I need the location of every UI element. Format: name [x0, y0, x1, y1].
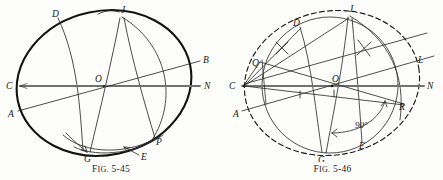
- figure-5-45-caption: FIG. 5-45: [0, 164, 222, 174]
- label-point-O: O: [95, 74, 102, 84]
- construction-arc-D: [300, 27, 322, 152]
- caption-number: 5-45: [112, 164, 131, 174]
- figure-5-46: D J L N Q C O A R E G 90° FIG. 5-46: [222, 0, 443, 180]
- label-point-P: P: [155, 137, 162, 147]
- bisector-tick-left: [276, 42, 288, 54]
- label-point-N: N: [426, 81, 434, 91]
- figure-5-45-drawing: D J B N C A O P E G: [0, 0, 222, 162]
- label-point-C: C: [229, 81, 236, 91]
- label-point-G: G: [318, 155, 325, 162]
- label-point-Q: Q: [252, 58, 259, 68]
- figure-5-46-labels: D J L N Q C O A R E G 90°: [229, 4, 434, 162]
- label-point-A: A: [232, 109, 239, 119]
- label-point-A: A: [7, 109, 14, 119]
- construction-line-Q-down: [262, 60, 266, 104]
- bisector-tick-right: [357, 40, 371, 56]
- label-point-L: L: [417, 55, 423, 65]
- figure-page: D J B N C A O P E G FIG. 5-45: [0, 0, 443, 180]
- label-point-C: C: [6, 81, 13, 91]
- point-dot-C: [243, 85, 246, 88]
- caption-smallcaps: IG.: [97, 165, 108, 174]
- figure-5-46-caption: FIG. 5-46: [222, 164, 443, 174]
- construction-arc-large: [122, 17, 166, 140]
- label-point-O: O: [332, 74, 339, 84]
- chord-line-C-D: [244, 28, 301, 86]
- pointer-arc-near-G: [66, 133, 87, 152]
- label-point-D: D: [292, 18, 300, 28]
- caption-number: 5-46: [333, 164, 352, 174]
- figure-5-45-labels: D J B N C A O P E G: [6, 5, 211, 162]
- label-point-E: E: [140, 152, 147, 162]
- label-point-J: J: [349, 4, 354, 14]
- label-point-D: D: [51, 9, 59, 19]
- main-ellipse-outline: [3, 0, 205, 162]
- chord-line-C-R: [244, 86, 404, 105]
- construction-arc-left: [58, 18, 83, 150]
- figure-5-45: D J B N C A O P E G FIG. 5-45: [0, 0, 222, 180]
- label-point-E: E: [358, 141, 365, 151]
- center-point-O: [103, 85, 105, 87]
- label-point-G: G: [84, 154, 91, 162]
- center-point-O: [331, 85, 334, 88]
- label-point-R: R: [398, 102, 405, 112]
- construction-arc-bottom: [63, 135, 160, 150]
- label-point-B: B: [203, 55, 209, 65]
- construction-arc-bottom-inner: [74, 135, 163, 153]
- label-angle-90: 90°: [355, 120, 368, 130]
- label-point-N: N: [203, 81, 211, 91]
- figure-5-46-drawing: D J L N Q C O A R E G 90°: [222, 0, 443, 162]
- caption-smallcaps: IG.: [319, 165, 330, 174]
